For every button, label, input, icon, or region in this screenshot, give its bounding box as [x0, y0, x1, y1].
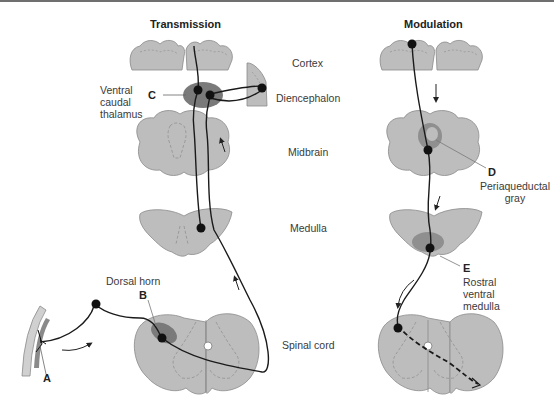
letter-e: E	[463, 262, 470, 274]
drg-cell-body	[92, 300, 101, 309]
arrow-descending-3	[398, 280, 414, 306]
medulla-right	[390, 209, 482, 257]
arrow-descending-2	[436, 196, 440, 208]
label-periaqueductal-gray: Periaqueductal gray	[470, 180, 554, 204]
label-rostral-ventral-medulla: Rostral ventral medulla	[463, 276, 523, 312]
diencephalon-neuron	[258, 84, 267, 93]
letter-d: D	[488, 166, 496, 178]
spinal-cord-left	[134, 314, 259, 394]
medulla-left	[140, 209, 232, 257]
cortex-right-hemispheres	[380, 40, 482, 70]
spinal-interneuron-right	[394, 324, 403, 333]
label-dorsal-horn: Dorsal horn	[106, 275, 160, 287]
panel-title-modulation: Modulation	[404, 18, 463, 30]
cortex-left-hemispheres	[130, 40, 232, 70]
pag-neuron	[424, 146, 433, 155]
letter-c: C	[148, 89, 156, 101]
level-label-cortex: Cortex	[292, 57, 323, 69]
rvm-neuron	[426, 244, 435, 253]
letter-b: B	[139, 289, 147, 301]
central-canal	[204, 342, 212, 350]
arrow-afferent	[62, 344, 90, 350]
ventral-caudal-thalamus-nucleus	[183, 82, 223, 108]
cortical-neuron	[408, 40, 417, 49]
panel-title-transmission: Transmission	[150, 18, 221, 30]
midbrain-left	[137, 111, 230, 176]
midbrain-right	[387, 111, 480, 176]
medulla-neuron-left	[197, 224, 206, 233]
modulation-fibers	[397, 44, 431, 326]
level-label-midbrain: Midbrain	[288, 146, 328, 158]
dorsal-horn-neuron	[158, 334, 167, 343]
level-label-diencephalon: Diencephalon	[276, 92, 340, 104]
level-label-spinal-cord: Spinal cord	[282, 339, 335, 351]
level-label-medulla: Medulla	[290, 222, 327, 234]
thalamic-neuron-2	[206, 91, 215, 100]
pain-pathway-diagram	[0, 0, 554, 410]
arrow-ascending-1	[235, 278, 239, 290]
thalamic-neuron-1	[194, 86, 203, 95]
letter-a: A	[43, 372, 51, 384]
